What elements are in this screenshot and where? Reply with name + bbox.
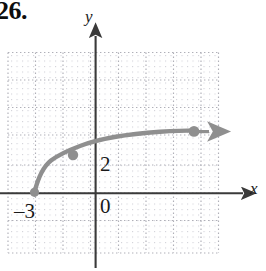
y-axis-label: y [83, 7, 93, 26]
point-x-intercept [30, 188, 39, 197]
x-intercept-label: –3 [13, 199, 35, 223]
point-on-curve [68, 150, 78, 160]
minor-grid-dots [8, 53, 219, 254]
y-value-label: 2 [100, 152, 111, 176]
grid-group [8, 53, 219, 254]
graph-figure: x y 0 –3 2 [0, 0, 266, 271]
origin-label: 0 [100, 194, 111, 218]
x-axis-label: x [249, 179, 258, 198]
figure-page: 26. [0, 0, 266, 271]
point-curve-end [189, 126, 200, 137]
